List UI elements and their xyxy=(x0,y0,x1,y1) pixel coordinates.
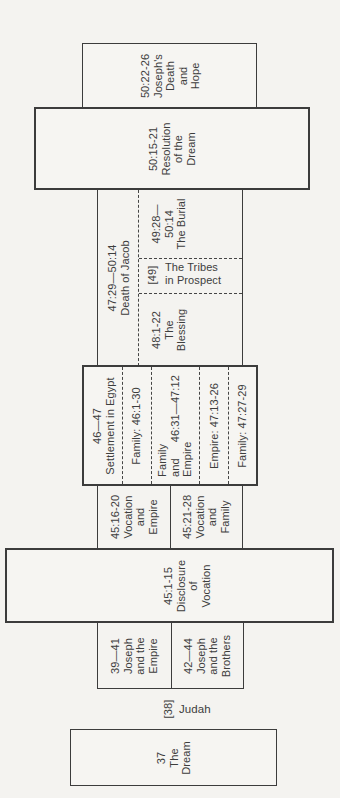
label-line: Blessing xyxy=(175,308,188,350)
label-line: Vocation xyxy=(194,495,207,539)
label-line: Joseph's xyxy=(151,53,164,97)
cell-tribes: [49] The Tribes in Prospect xyxy=(139,258,242,293)
section-joseph: 39—41 Joseph and the Empire 42—44 Joseph… xyxy=(97,623,244,689)
box-resolution-label: 50:15-21 Resolution of the Dream xyxy=(147,122,197,175)
label-line: Resolution xyxy=(160,122,173,175)
cell-joseph-empire-label: 39—41 Joseph and the Empire xyxy=(109,637,159,674)
label-line: Vocation xyxy=(122,495,135,539)
label-line: of xyxy=(187,559,200,611)
label-line: Death of Jacob xyxy=(118,240,131,315)
section-vocation: 45:16-20 Vocation and Empire 45:21-28 Vo… xyxy=(97,486,243,548)
label-line: and xyxy=(206,495,219,539)
cell-vocation-empire: 45:16-20 Vocation and Empire xyxy=(98,486,170,548)
label-line: Vocation xyxy=(199,559,212,611)
cell-blessing-label: 48:1-22 The Blessing xyxy=(150,308,188,350)
cell-burial-label: 49:28— 50:14 The Burial xyxy=(150,198,188,249)
settlement-row-family-empire-label: Family and46:31—47:12 Empire xyxy=(156,375,194,477)
label-line: 47:29—50:14 xyxy=(105,240,118,315)
box-dream: 37 The Dream xyxy=(70,729,277,786)
settlement-row-family-label: Family: 46:1-30 xyxy=(130,387,143,464)
label-line: 45:1-15 xyxy=(162,559,175,611)
box-josephs-death-label: 50:22-26 Joseph's Death and Hope xyxy=(138,53,201,97)
box-josephs-death: 50:22-26 Joseph's Death and Hope xyxy=(82,43,257,108)
label-line: 50:22-26 xyxy=(138,53,151,97)
judah-ref: [38] xyxy=(161,700,174,719)
box-dream-label: 37 The Dream xyxy=(155,741,193,775)
label-line: Empire xyxy=(147,637,160,674)
settlement-row-empire: Empire: 47:13-26 xyxy=(199,367,228,484)
label-line: Empire xyxy=(181,375,194,477)
label-line: 37 xyxy=(155,741,168,775)
cell-vocation-family: 45:21-28 Vocation and Family xyxy=(170,486,242,548)
settlement-row-empire-label: Empire: 47:13-26 xyxy=(207,383,220,469)
label-line: The Tribes xyxy=(165,261,221,274)
death-of-jacob-header-label: 47:29—50:14 Death of Jacob xyxy=(105,240,130,315)
cell-burial: 49:28— 50:14 The Burial xyxy=(139,190,242,257)
settlement-header: 46—47 Settlement in Egypt xyxy=(84,367,122,484)
settlement-row-family-empire: Family and46:31—47:12 Empire xyxy=(151,367,200,484)
label-line: Dream xyxy=(180,741,193,775)
cell-joseph-brothers: 42—44 Joseph and the Brothers xyxy=(171,623,244,688)
label-line: 39—41 xyxy=(109,637,122,674)
label-line: in Prospect xyxy=(165,274,221,287)
settlement-row-family: Family: 46:1-30 xyxy=(122,367,151,484)
judah-label: Judah xyxy=(179,703,211,716)
label-line: The xyxy=(167,741,180,775)
label-line: 46—47 xyxy=(91,377,104,474)
label-line: 50:15-21 xyxy=(147,122,160,175)
cell-tribes-label: The Tribes in Prospect xyxy=(165,261,221,286)
label-line: and the xyxy=(134,637,147,674)
label-line: 45:16-20 xyxy=(109,495,122,539)
label-line: of the xyxy=(172,122,185,175)
judah-annotation: [38] Judah xyxy=(160,695,220,723)
cell-vocation-empire-label: 45:16-20 Vocation and Empire xyxy=(109,495,159,539)
label-line: Family xyxy=(219,495,232,539)
label-line: Empire xyxy=(147,495,160,539)
settlement-row-family2: Family: 47:27-29 xyxy=(228,367,256,484)
label-line: 48:1-22 xyxy=(150,308,163,350)
label-line: and xyxy=(134,495,147,539)
cell-tribes-ref-wrap: [49] xyxy=(144,260,160,290)
label-line: Joseph xyxy=(122,637,135,674)
judah-ref-wrap: [38] xyxy=(160,695,175,723)
box-disclosure-label: 45:1-15 Disclosure of Vocation xyxy=(162,559,212,611)
label-line: 50:14 xyxy=(162,198,175,249)
cell-blessing: 48:1-22 The Blessing xyxy=(139,293,242,366)
label-line: Joseph xyxy=(194,634,207,676)
structure-diagram: 50:22-26 Joseph's Death and Hope 50:15-2… xyxy=(0,0,340,798)
cell-vocation-family-label: 45:21-28 Vocation and Family xyxy=(181,495,231,539)
label-line: 42—44 xyxy=(182,634,195,676)
cell-joseph-brothers-label: 42—44 Joseph and the Brothers xyxy=(182,634,232,676)
label-line: Disclosure xyxy=(174,559,187,611)
death-of-jacob-header: 47:29—50:14 Death of Jacob xyxy=(98,190,138,366)
label-line: The Burial xyxy=(175,198,188,249)
label-line: The xyxy=(162,308,175,350)
label-line: 45:21-28 xyxy=(181,495,194,539)
cell-tribes-ref: [49] xyxy=(146,266,159,285)
section-death-of-jacob: 47:29—50:14 Death of Jacob 49:28— 50:14 … xyxy=(97,190,243,366)
label-line: Hope xyxy=(188,53,201,97)
label-line: Settlement in Egypt xyxy=(103,377,116,474)
label-line: Death xyxy=(163,53,176,97)
label-line: Family xyxy=(156,375,169,477)
box-resolution: 50:15-21 Resolution of the Dream xyxy=(34,107,310,190)
box-settlement: 46—47 Settlement in Egypt Family: 46:1-3… xyxy=(82,365,258,486)
label-line: 49:28— xyxy=(150,198,163,249)
label-line: Dream xyxy=(185,122,198,175)
label-line: and46:31—47:12 xyxy=(169,375,182,477)
settlement-header-label: 46—47 Settlement in Egypt xyxy=(91,377,116,474)
settlement-row-family2-label: Family: 47:27-29 xyxy=(236,384,249,468)
label-line: Brothers xyxy=(219,634,232,676)
box-disclosure: 45:1-15 Disclosure of Vocation xyxy=(5,548,334,623)
cell-joseph-empire: 39—41 Joseph and the Empire xyxy=(98,623,171,688)
label-line: and xyxy=(176,53,189,97)
label-line: and the xyxy=(207,634,220,676)
